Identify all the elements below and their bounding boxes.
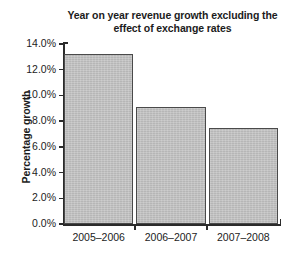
bar bbox=[209, 128, 278, 224]
chart-title-line-1: Year on year revenue growth excluding th… bbox=[50, 9, 295, 22]
y-axis-tick-label: 10.0% bbox=[0, 88, 56, 100]
chart-title-line-2: effect of exchange rates bbox=[50, 22, 295, 35]
bar bbox=[136, 107, 205, 224]
x-axis-category-label: 2007–2008 bbox=[209, 231, 278, 243]
y-axis-tick-label: 8.0% bbox=[0, 114, 56, 126]
y-axis-tick-label: 0.0% bbox=[0, 217, 56, 229]
bar bbox=[64, 54, 133, 224]
chart-title: Year on year revenue growth excluding th… bbox=[50, 9, 295, 35]
y-axis-tick-label: 4.0% bbox=[0, 166, 56, 178]
x-axis-tick bbox=[206, 224, 208, 230]
x-axis-category-label: 2005–2006 bbox=[64, 231, 133, 243]
x-axis-line bbox=[63, 224, 281, 226]
plot-area bbox=[64, 44, 281, 224]
y-axis-tick-label: 6.0% bbox=[0, 140, 56, 152]
x-axis-category-label: 2006–2007 bbox=[136, 231, 205, 243]
y-axis-tick-label: 2.0% bbox=[0, 191, 56, 203]
bar-chart: Year on year revenue growth excluding th… bbox=[0, 0, 299, 256]
y-axis-tick-label: 14.0% bbox=[0, 37, 56, 49]
x-axis-tick bbox=[134, 224, 136, 230]
y-axis-tick-label: 12.0% bbox=[0, 63, 56, 75]
